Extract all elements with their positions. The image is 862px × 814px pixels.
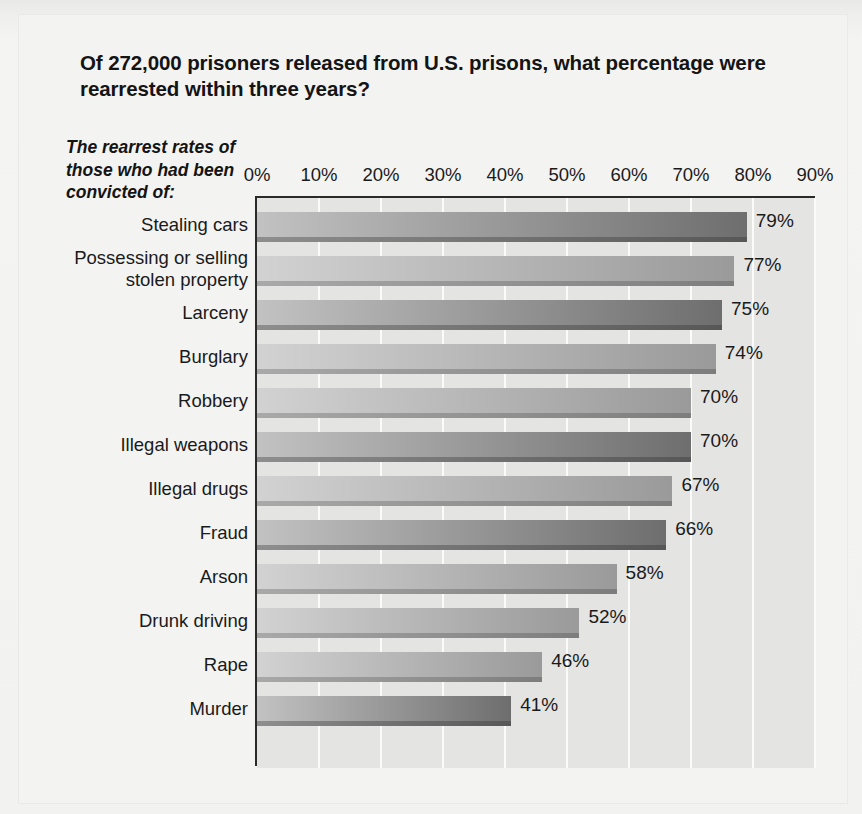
chart-subtitle: The rearrest rates of those who had been… — [66, 136, 244, 204]
bar-value-label: 41% — [520, 694, 558, 716]
bar — [257, 520, 666, 545]
bar-row: 77% — [257, 250, 815, 294]
category-label-line: Arson — [52, 566, 248, 588]
x-axis-tick-labels: 0%10%20%30%40%50%60%70%80%90% — [257, 164, 815, 188]
category-label-line: stolen property — [52, 269, 248, 291]
bar-value-label: 70% — [700, 430, 738, 452]
bar-row: 66% — [257, 514, 815, 558]
category-label-line: Drunk driving — [52, 610, 248, 632]
category-label-line: Illegal weapons — [52, 434, 248, 456]
category-label-line: Illegal drugs — [52, 478, 248, 500]
category-label-line: Murder — [52, 698, 248, 720]
bar — [257, 696, 511, 721]
bar-row: 67% — [257, 470, 815, 514]
category-label: Drunk driving — [52, 610, 248, 632]
chart-card: Of 272,000 prisoners released from U.S. … — [18, 14, 848, 804]
bar-shadow-edge — [257, 633, 579, 638]
bar-shadow-edge — [257, 325, 722, 330]
category-label-line: Stealing cars — [52, 214, 248, 236]
bar — [257, 432, 691, 457]
bar-shadow-edge — [257, 457, 691, 462]
category-label-line: Possessing or selling — [52, 247, 248, 269]
category-label: Illegal weapons — [52, 434, 248, 456]
bar-fill — [257, 564, 617, 589]
bar — [257, 564, 617, 589]
bar-fill — [257, 476, 672, 501]
bar-shadow-edge — [257, 721, 511, 726]
page-background: Of 272,000 prisoners released from U.S. … — [0, 0, 862, 814]
category-label: Larceny — [52, 302, 248, 324]
bar — [257, 652, 542, 677]
chart-title: Of 272,000 prisoners released from U.S. … — [80, 50, 780, 102]
bar-row: 75% — [257, 294, 815, 338]
bar-row: 46% — [257, 646, 815, 690]
category-label: Arson — [52, 566, 248, 588]
bar-value-label: 79% — [756, 210, 794, 232]
bar-fill — [257, 256, 734, 281]
bar-value-label: 67% — [681, 474, 719, 496]
x-tick-label: 90% — [796, 164, 833, 186]
bar-fill — [257, 300, 722, 325]
x-tick-label: 0% — [244, 164, 271, 186]
bar-fill — [257, 388, 691, 413]
category-label: Illegal drugs — [52, 478, 248, 500]
bar-value-label: 52% — [588, 606, 626, 628]
x-tick-label: 50% — [548, 164, 585, 186]
bar — [257, 388, 691, 413]
bar-row: 70% — [257, 382, 815, 426]
bar — [257, 212, 747, 237]
bar — [257, 344, 716, 369]
bar-row: 74% — [257, 338, 815, 382]
category-label: Rape — [52, 654, 248, 676]
bar-value-label: 75% — [731, 298, 769, 320]
bar-fill — [257, 608, 579, 633]
category-label: Fraud — [52, 522, 248, 544]
category-label-line: Rape — [52, 654, 248, 676]
bar-row: 70% — [257, 426, 815, 470]
plot-area: 79%77%75%74%70%70%67%66%58%52%46%41% — [257, 198, 815, 768]
bar — [257, 300, 722, 325]
x-tick-label: 10% — [300, 164, 337, 186]
y-axis-category-labels: Stealing carsPossessing or sellingstolen… — [52, 198, 248, 768]
category-label: Murder — [52, 698, 248, 720]
bar-row: 41% — [257, 690, 815, 734]
bar-fill — [257, 520, 666, 545]
bar-shadow-edge — [257, 501, 672, 506]
plot-top-border — [257, 196, 815, 198]
bar-shadow-edge — [257, 677, 542, 682]
category-label: Stealing cars — [52, 214, 248, 236]
bar-row: 52% — [257, 602, 815, 646]
x-tick-label: 40% — [486, 164, 523, 186]
category-label-line: Larceny — [52, 302, 248, 324]
bar-shadow-edge — [257, 545, 666, 550]
category-label: Robbery — [52, 390, 248, 412]
bar-shadow-edge — [257, 369, 716, 374]
x-tick-label: 70% — [672, 164, 709, 186]
category-label: Burglary — [52, 346, 248, 368]
bar-value-label: 70% — [700, 386, 738, 408]
category-label: Possessing or sellingstolen property — [52, 247, 248, 291]
bar-shadow-edge — [257, 413, 691, 418]
bar-shadow-edge — [257, 281, 734, 286]
bar-fill — [257, 696, 511, 721]
bar-value-label: 74% — [725, 342, 763, 364]
bar-row: 58% — [257, 558, 815, 602]
category-label-line: Burglary — [52, 346, 248, 368]
bar-fill — [257, 212, 747, 237]
bar — [257, 256, 734, 281]
bar — [257, 476, 672, 501]
bar-fill — [257, 432, 691, 457]
x-tick-label: 60% — [610, 164, 647, 186]
category-label-line: Robbery — [52, 390, 248, 412]
bar-shadow-edge — [257, 237, 747, 242]
bar-value-label: 46% — [551, 650, 589, 672]
bar-row: 79% — [257, 206, 815, 250]
bar-value-label: 77% — [743, 254, 781, 276]
bar-value-label: 66% — [675, 518, 713, 540]
x-tick-label: 30% — [424, 164, 461, 186]
category-label-line: Fraud — [52, 522, 248, 544]
bar-shadow-edge — [257, 589, 617, 594]
bar-value-label: 58% — [626, 562, 664, 584]
bar-fill — [257, 652, 542, 677]
bar — [257, 608, 579, 633]
